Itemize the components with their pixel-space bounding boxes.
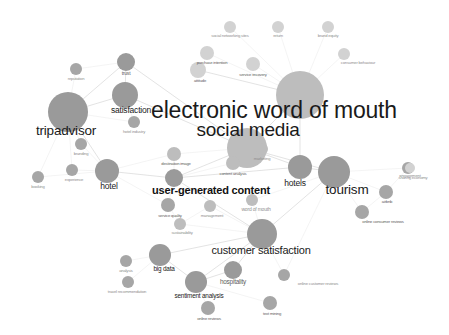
graph-node-trust[interactable] bbox=[117, 53, 135, 71]
graph-node-online-consumer-reviews[interactable] bbox=[355, 205, 369, 219]
graph-node-content-analysis[interactable] bbox=[226, 156, 240, 170]
graph-node-satisfaction[interactable] bbox=[112, 82, 138, 108]
graph-node-social-networking-sites[interactable] bbox=[224, 21, 236, 33]
graph-edge bbox=[284, 172, 334, 275]
edge-layer bbox=[38, 27, 408, 308]
graph-node-tourism[interactable] bbox=[318, 156, 350, 188]
graph-node-marketing[interactable] bbox=[256, 143, 268, 155]
graph-node-electronic-word-of-mouth[interactable] bbox=[276, 71, 324, 119]
network-graph-canvas bbox=[0, 0, 449, 335]
graph-node-hotels[interactable] bbox=[288, 155, 312, 179]
graph-edge bbox=[126, 62, 247, 148]
graph-node-management[interactable] bbox=[204, 200, 216, 212]
graph-node-destination-image[interactable] bbox=[167, 147, 181, 161]
graph-node-return[interactable] bbox=[272, 21, 284, 33]
graph-node-word-of-mouth[interactable] bbox=[246, 194, 258, 206]
graph-node-engagement[interactable] bbox=[405, 163, 415, 173]
graph-node-hotel-industry[interactable] bbox=[128, 116, 140, 128]
graph-node-online-reviews[interactable] bbox=[201, 301, 215, 315]
graph-node-reputation[interactable] bbox=[70, 63, 82, 75]
graph-node-brand-equity[interactable] bbox=[322, 21, 334, 33]
graph-node-big-data[interactable] bbox=[149, 244, 171, 266]
graph-edge bbox=[174, 178, 262, 234]
graph-node-hospitality[interactable] bbox=[224, 261, 242, 279]
graph-node-analysis[interactable] bbox=[120, 255, 132, 267]
graph-node-consumer-behaviour[interactable] bbox=[338, 48, 350, 60]
graph-node-online-customer-reviews[interactable] bbox=[278, 269, 290, 281]
graph-node-ewom-experience[interactable] bbox=[66, 164, 78, 176]
graph-node-travel-recommendation[interactable] bbox=[122, 276, 134, 288]
graph-node-user-generated-content[interactable] bbox=[165, 169, 183, 187]
graph-edge bbox=[196, 282, 270, 303]
graph-node-branding[interactable] bbox=[75, 138, 87, 150]
graph-node-attitude[interactable] bbox=[190, 62, 206, 78]
graph-node-tripadvisor[interactable] bbox=[48, 92, 88, 132]
graph-edge bbox=[160, 234, 262, 255]
graph-node-sentiment-analysis[interactable] bbox=[185, 271, 207, 293]
node-layer bbox=[32, 21, 415, 315]
graph-node-sustainability[interactable] bbox=[174, 218, 186, 230]
graph-node-hotel[interactable] bbox=[95, 159, 119, 183]
graph-node-service-recovery[interactable] bbox=[246, 57, 260, 71]
graph-node-booking[interactable] bbox=[32, 171, 44, 183]
graph-node-service-quality[interactable] bbox=[161, 198, 175, 212]
graph-node-purchase-intention[interactable] bbox=[200, 46, 214, 60]
graph-node-customer-satisfaction[interactable] bbox=[247, 219, 277, 249]
graph-node-airbnb[interactable] bbox=[379, 185, 393, 199]
graph-node-text-mining[interactable] bbox=[263, 296, 277, 310]
